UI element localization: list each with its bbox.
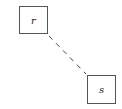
node-s: s: [87, 75, 116, 104]
node-s-label: s: [99, 84, 104, 95]
node-r: r: [19, 6, 48, 34]
edge-r-s: [49, 36, 86, 74]
node-r-label: r: [31, 15, 36, 26]
